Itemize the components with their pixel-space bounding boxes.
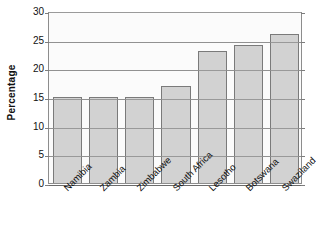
y-axis-tick-labels: 051015202530 bbox=[22, 0, 46, 190]
y-tick-mark bbox=[301, 70, 305, 71]
plot-area bbox=[48, 12, 302, 184]
y-tick-mark bbox=[301, 156, 305, 157]
y-axis-title: Percentage bbox=[0, 0, 24, 184]
bar-chart: Percentage 051015202530 NamibiaZambiaZim… bbox=[0, 0, 316, 245]
y-tick-label: 25 bbox=[33, 36, 44, 46]
y-tick-label: 15 bbox=[33, 93, 44, 103]
bars-layer bbox=[49, 13, 301, 183]
y-tick-label: 5 bbox=[38, 150, 44, 160]
y-tick-mark bbox=[301, 42, 305, 43]
y-axis-title-label: Percentage bbox=[7, 64, 18, 120]
y-tick-label: 0 bbox=[38, 179, 44, 189]
y-tick-label: 30 bbox=[33, 7, 44, 17]
y-tick-label: 20 bbox=[33, 64, 44, 74]
y-tick-mark bbox=[301, 99, 305, 100]
y-tick-mark bbox=[301, 128, 305, 129]
bar bbox=[234, 45, 263, 183]
y-tick-label: 10 bbox=[33, 122, 44, 132]
y-tick-mark bbox=[301, 13, 305, 14]
x-axis-tick-labels: NamibiaZambiaZimbabweSouth AfricaLesotho… bbox=[48, 184, 302, 245]
